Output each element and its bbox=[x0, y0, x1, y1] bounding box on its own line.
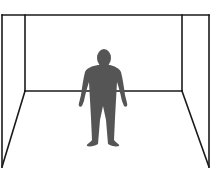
room-diagram bbox=[0, 0, 217, 169]
figure-head bbox=[97, 49, 111, 67]
